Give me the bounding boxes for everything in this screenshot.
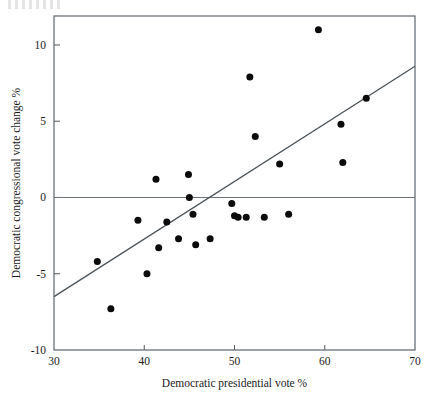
plot-canvas: 30405060701050-5-10Democratic presidenti… [0,0,430,411]
x-axis-title: Democratic presidential vote % [162,377,308,390]
x-tick-label: 50 [229,355,241,367]
data-point [134,217,141,224]
data-point [228,200,235,207]
data-point [276,160,283,167]
x-tick-label: 30 [48,355,60,367]
data-point [152,176,159,183]
data-point [337,121,344,128]
data-point [163,218,170,225]
data-point [339,159,346,166]
data-point [207,235,214,242]
data-point [107,305,114,312]
plot-frame [54,16,415,350]
scatter-plot-figure: 30405060701050-5-10Democratic presidenti… [0,0,430,411]
data-point [252,133,259,140]
data-point [285,211,292,218]
x-tick-label: 40 [139,355,151,367]
regression-line [54,66,415,296]
data-point [261,214,268,221]
data-point [246,74,253,81]
y-tick-label: 10 [35,39,47,51]
data-point [186,194,193,201]
data-point [175,235,182,242]
data-point [363,95,370,102]
y-tick-label: -5 [36,268,46,280]
data-point [235,214,242,221]
data-point [192,241,199,248]
data-point [155,244,162,251]
data-point [185,171,192,178]
data-point [189,211,196,218]
data-point [143,270,150,277]
y-axis-title: Democratic congressional vote change % [10,87,23,278]
y-tick-label: -10 [31,344,47,356]
x-tick-label: 60 [319,355,331,367]
data-point [94,258,101,265]
x-tick-label: 70 [409,355,421,367]
data-point [315,26,322,33]
data-point [243,214,250,221]
y-tick-label: 0 [40,191,46,203]
y-tick-label: 5 [40,115,46,127]
